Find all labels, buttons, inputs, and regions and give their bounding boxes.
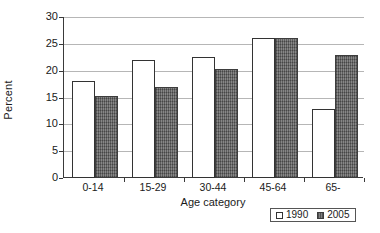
bar-2005-65- [335, 55, 358, 178]
plot-area [63, 17, 363, 178]
y-axis-title: Percent [2, 60, 14, 140]
y-axis-tick-label: 15 [18, 92, 58, 103]
bar-2005-0-14 [95, 96, 118, 178]
bar-group [304, 17, 364, 178]
y-axis-tick-label: 10 [18, 118, 58, 129]
x-axis-tick-label: 30-44 [183, 182, 243, 193]
y-axis-tick-label: 30 [18, 11, 58, 22]
hollow-square-icon [276, 212, 283, 219]
bars-layer [64, 17, 364, 178]
x-axis-tick-label: 15-29 [123, 182, 183, 193]
hatched-square-icon [317, 212, 324, 219]
x-axis-tick-mark [364, 178, 365, 182]
x-axis-tick-label: 0-14 [63, 182, 123, 193]
bar-1990-45-64 [252, 38, 275, 178]
chart-legend: 19902005 [270, 208, 356, 222]
bar-1990-30-44 [192, 57, 215, 178]
y-axis-tick-label: 25 [18, 38, 58, 49]
y-axis-tick-label: 5 [18, 145, 58, 156]
legend-item-2005: 2005 [317, 210, 349, 220]
figure-caption [2, 225, 378, 233]
legend-label: 2005 [327, 210, 349, 220]
bar-group [184, 17, 244, 178]
bar-1990-15-29 [132, 60, 155, 178]
bar-2005-30-44 [215, 69, 238, 178]
y-axis-tick-label: 0 [18, 172, 58, 183]
bar-1990-0-14 [72, 81, 95, 178]
bar-1990-65- [312, 109, 335, 178]
legend-item-1990: 1990 [276, 210, 308, 220]
legend-label: 1990 [286, 210, 308, 220]
bar-chart-figure: Percent 051015202530 0-1415-2930-4445-64… [0, 0, 380, 233]
bar-group [64, 17, 124, 178]
x-axis-title: Age category [63, 196, 363, 208]
x-axis-tick-label: 45-64 [243, 182, 303, 193]
x-axis-tick-label: 65- [303, 182, 363, 193]
bar-group [124, 17, 184, 178]
y-axis-tick-label: 20 [18, 65, 58, 76]
bar-2005-45-64 [275, 38, 298, 178]
bar-group [244, 17, 304, 178]
y-axis-tick-mark [59, 178, 63, 179]
bar-2005-15-29 [155, 87, 178, 178]
